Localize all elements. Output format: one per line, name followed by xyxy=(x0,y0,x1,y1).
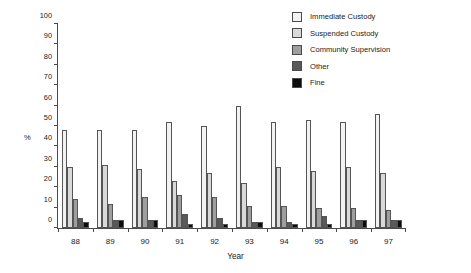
bar-group: 92 xyxy=(197,24,232,228)
x-axis-tick xyxy=(93,228,94,232)
x-axis-tick xyxy=(405,228,406,232)
bar-group: 95 xyxy=(302,24,337,228)
bar-group: 89 xyxy=(93,24,128,228)
bar-group-bars xyxy=(97,24,124,228)
bar-group: 88 xyxy=(58,24,93,228)
bar-group: 90 xyxy=(128,24,163,228)
legend-swatch-icon xyxy=(292,12,302,22)
bar-group-bars xyxy=(132,24,159,228)
bar xyxy=(223,224,228,228)
x-axis-tick-label: 96 xyxy=(336,237,371,246)
bar-group: 94 xyxy=(267,24,302,228)
bar xyxy=(292,224,297,228)
x-axis-tick-label: 91 xyxy=(162,237,197,246)
x-axis-tick xyxy=(267,228,268,232)
bar-chart-figure: Immediate CustodySuspended CustodyCommun… xyxy=(0,0,471,273)
bar xyxy=(153,220,158,228)
bar xyxy=(362,220,367,228)
bar-group-bars xyxy=(340,24,367,228)
bar-group: 96 xyxy=(336,24,371,228)
bar-groups: 88899091929394959697 xyxy=(58,24,406,228)
bar xyxy=(257,222,262,228)
bar xyxy=(188,224,193,228)
bar-group-bars xyxy=(201,24,228,228)
x-axis-tick xyxy=(371,228,372,232)
y-axis-tick-label: 80 xyxy=(44,51,52,60)
x-axis-tick xyxy=(162,228,163,232)
x-axis-tick-label: 95 xyxy=(302,237,337,246)
y-axis-tick-label: 10 xyxy=(44,194,52,203)
x-axis-label: Year xyxy=(0,252,471,261)
y-axis-tick-label: 30 xyxy=(44,153,52,162)
x-axis-tick-label: 88 xyxy=(58,237,93,246)
y-axis-tick-label: 50 xyxy=(44,113,52,122)
x-axis-tick xyxy=(128,228,129,232)
y-axis-tick-label: 20 xyxy=(44,174,52,183)
x-axis-tick xyxy=(302,228,303,232)
x-axis-tick xyxy=(197,228,198,232)
bar xyxy=(83,222,88,228)
x-axis-tick-label: 97 xyxy=(371,237,406,246)
x-axis-tick-label: 90 xyxy=(128,237,163,246)
bar xyxy=(327,224,332,228)
bar-group: 97 xyxy=(371,24,406,228)
x-axis-tick-label: 93 xyxy=(232,237,267,246)
x-axis-tick-label: 89 xyxy=(93,237,128,246)
bar-group-bars xyxy=(166,24,193,228)
y-axis-tick-label: 70 xyxy=(44,72,52,81)
bar xyxy=(397,220,402,228)
bar-group-bars xyxy=(236,24,263,228)
bar-group: 91 xyxy=(162,24,197,228)
bar-group: 93 xyxy=(232,24,267,228)
legend-item-label: Immediate Custody xyxy=(310,11,375,22)
y-axis-tick-label: 40 xyxy=(44,133,52,142)
y-axis-tick-label: 60 xyxy=(44,92,52,101)
x-axis-tick xyxy=(336,228,337,232)
y-axis-tick-label: 0 xyxy=(48,215,52,224)
y-axis-tick-label: 100 xyxy=(40,11,52,20)
x-axis-tick xyxy=(58,228,59,232)
bar-group-bars xyxy=(306,24,333,228)
bar xyxy=(118,220,123,228)
x-axis-tick-label: 92 xyxy=(197,237,232,246)
plot-area: 0102030405060708090100 88899091929394959… xyxy=(57,24,406,229)
y-axis-tick-label: 90 xyxy=(44,31,52,40)
x-axis-tick xyxy=(232,228,233,232)
y-axis-label: % xyxy=(24,133,31,142)
legend-item: Immediate Custody xyxy=(292,11,390,22)
bar-group-bars xyxy=(62,24,89,228)
bar-group-bars xyxy=(375,24,402,228)
bar-group-bars xyxy=(271,24,298,228)
x-axis-tick-label: 94 xyxy=(267,237,302,246)
